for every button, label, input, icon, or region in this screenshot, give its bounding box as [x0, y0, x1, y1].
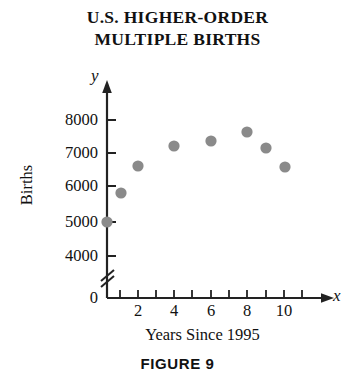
data-point [279, 161, 290, 172]
y-tick-label-8000: 8000 [38, 112, 98, 129]
x-axis-arrowhead [321, 293, 334, 303]
y-tick-label-0: 0 [38, 290, 98, 307]
x-tick-label-8: 8 [232, 303, 262, 320]
x-axis-ticks [120, 290, 302, 298]
y-tick-label-7000: 7000 [38, 145, 98, 162]
data-point [115, 187, 126, 198]
y-tick-label-4000: 4000 [38, 248, 98, 265]
y-axis-ticks [107, 120, 116, 256]
x-tick-label-10: 10 [269, 303, 299, 320]
data-point [241, 126, 252, 137]
data-point [205, 135, 216, 146]
data-point [168, 140, 179, 151]
axes-group [101, 80, 334, 303]
x-tick-label-4: 4 [159, 303, 189, 320]
y-tick-label-5000: 5000 [38, 214, 98, 231]
data-point [260, 142, 271, 153]
data-point-group [101, 126, 290, 227]
figure-container: U.S. HIGHER-ORDER MULTIPLE BIRTHS y x Bi… [0, 0, 355, 384]
x-tick-label-2: 2 [123, 303, 153, 320]
data-point [101, 216, 112, 227]
x-tick-label-6: 6 [196, 303, 226, 320]
y-axis-arrowhead [102, 80, 112, 93]
data-point [132, 160, 143, 171]
y-tick-label-6000: 6000 [38, 178, 98, 195]
